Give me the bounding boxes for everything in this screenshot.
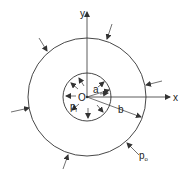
cylinder-diagram: y x O a b pi po [0, 0, 188, 178]
origin-point [86, 96, 88, 98]
outer-pressure-label: po [139, 150, 149, 162]
outer-radius-label: b [118, 104, 124, 115]
x-axis-label: x [173, 92, 178, 103]
inner-radius-label: a [93, 84, 99, 95]
radius-b-line [87, 97, 141, 117]
inner-pressure-label: pi [70, 101, 77, 113]
origin-label: O [78, 92, 86, 103]
y-axis-label: y [80, 8, 85, 19]
